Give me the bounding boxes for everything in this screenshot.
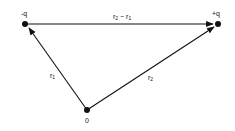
pos-charge-dot: [215, 21, 221, 27]
neg-charge-label: -q: [21, 10, 27, 17]
vector-r2: [87, 27, 214, 110]
pos-charge-label: +q: [212, 10, 220, 17]
vector-r1: [29, 28, 87, 110]
origin-dot: [84, 107, 90, 113]
origin-label: 0: [85, 117, 89, 124]
neg-charge-dot: [22, 21, 28, 27]
r1-label: r1: [50, 72, 55, 80]
r2-label: r2: [148, 74, 153, 82]
diff-label: r2 − r1: [113, 13, 131, 21]
